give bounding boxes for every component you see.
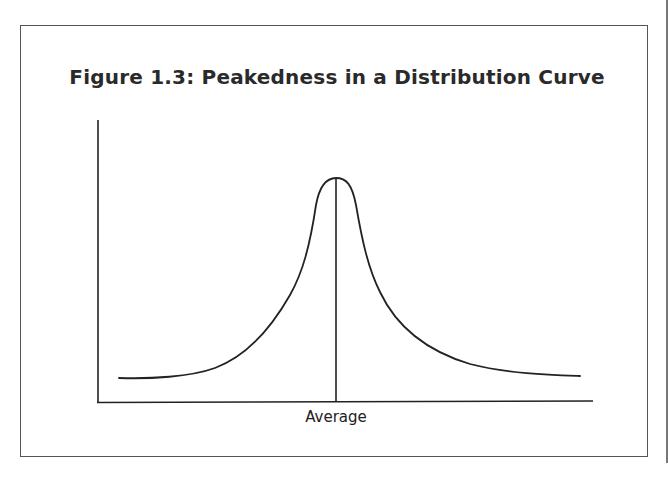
x-axis [97, 401, 593, 403]
distribution-curve [119, 178, 580, 378]
x-axis-label-average: Average [286, 408, 386, 426]
